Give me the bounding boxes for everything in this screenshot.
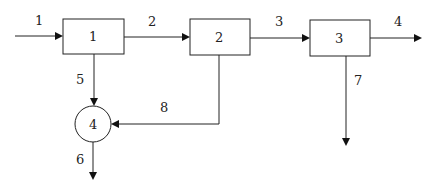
- stream-3: [250, 34, 310, 42]
- stream-label-6: 6: [76, 152, 84, 167]
- process-flow-diagram: 1 1 2 2 3 3 4 5 4: [0, 0, 433, 190]
- node-1: 1: [63, 19, 124, 54]
- stream-8: [111, 55, 219, 128]
- stream-label-8: 8: [160, 100, 168, 115]
- node-2: 2: [190, 19, 250, 55]
- node-label-2: 2: [215, 30, 223, 45]
- stream-label-3: 3: [275, 14, 283, 29]
- node-label-1: 1: [89, 29, 97, 44]
- stream-6: [89, 142, 97, 180]
- stream-label-5: 5: [76, 72, 84, 87]
- node-label-3: 3: [335, 31, 343, 46]
- stream-7: [342, 56, 350, 146]
- stream-2: [124, 33, 190, 41]
- node-4: 4: [75, 106, 111, 142]
- stream-5: [90, 54, 98, 106]
- stream-label-1: 1: [35, 13, 43, 28]
- node-label-4: 4: [89, 117, 97, 132]
- stream-4: [370, 34, 422, 42]
- stream-label-4: 4: [394, 14, 402, 29]
- node-3: 3: [310, 20, 370, 56]
- stream-1: [15, 32, 63, 40]
- stream-label-2: 2: [148, 14, 156, 29]
- stream-label-7: 7: [354, 73, 362, 88]
